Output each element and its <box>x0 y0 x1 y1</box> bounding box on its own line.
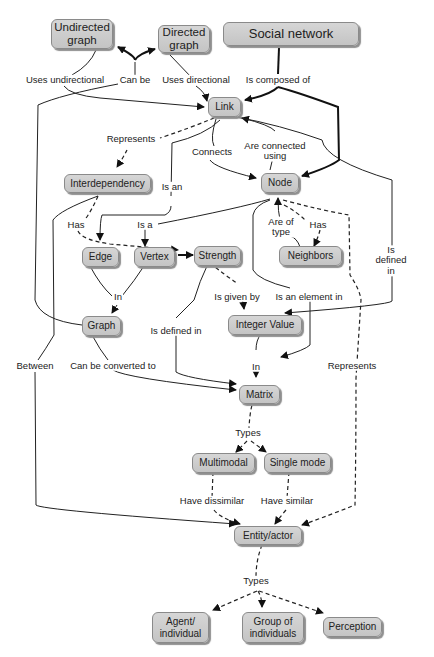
node-edge: Edge <box>82 247 119 267</box>
node-directed-graph: Directed graph <box>158 25 210 53</box>
label-is-given-by: Is given by <box>213 292 260 302</box>
label-uses-undirectional: Uses undirectional <box>25 75 105 85</box>
label-have-dissimilar: Have dissimilar <box>179 496 245 506</box>
label-are-of-type: Are of type <box>267 217 294 238</box>
node-strength: Strength <box>194 246 241 266</box>
node-graph: Graph <box>82 316 121 336</box>
label-is-composed-of: Is composed of <box>245 75 311 85</box>
node-multimodal: Multimodal <box>192 453 255 473</box>
node-undirected-graph: Undirected graph <box>51 19 113 49</box>
label-has-2: Has <box>309 220 328 230</box>
node-neighbors: Neighbors <box>279 246 342 266</box>
label-can-be: Can be <box>119 75 152 85</box>
label-between: Between <box>16 361 55 371</box>
label-in-2: In <box>251 362 261 372</box>
label-is-an-element-in: Is an element in <box>274 292 343 302</box>
label-uses-directional: Uses directional <box>161 75 231 85</box>
node-matrix: Matrix <box>239 385 280 404</box>
node-social-network: Social network <box>223 22 359 46</box>
node-integer-value: Integer Value <box>228 315 302 335</box>
label-is-defined-in-right: Is defined in <box>370 245 413 276</box>
label-connects: Connects <box>191 147 233 157</box>
label-is-an: Is an <box>161 182 184 192</box>
node-perception: Perception <box>323 617 382 637</box>
concept-map-canvas: Undirected graph Directed graph Social n… <box>0 0 434 657</box>
node-entity-actor: Entity/actor <box>234 526 302 545</box>
label-are-connected-using: Are connected using <box>243 141 306 162</box>
label-represents-1: Represents <box>106 134 157 144</box>
label-can-be-converted-to: Can be converted to <box>69 361 157 371</box>
label-is-defined-in-left: Is defined in <box>149 326 202 336</box>
label-is-a: Is a <box>136 220 153 230</box>
label-types-2: Types <box>242 576 269 586</box>
label-has-1: Has <box>67 220 86 230</box>
label-have-similar: Have similar <box>260 496 314 506</box>
label-types-1: Types <box>234 428 261 438</box>
node-link: Link <box>208 97 241 117</box>
label-in-1: In <box>113 292 123 302</box>
node-single-mode: Single mode <box>264 453 331 473</box>
node-vertex: Vertex <box>134 247 175 267</box>
node-node: Node <box>261 173 299 193</box>
node-group-of-individuals: Group of individuals <box>242 612 304 643</box>
node-interdependency: Interdependency <box>64 174 151 193</box>
node-agent-individual: Agent/ individual <box>152 612 209 643</box>
label-represents-2: Represents <box>327 361 378 371</box>
